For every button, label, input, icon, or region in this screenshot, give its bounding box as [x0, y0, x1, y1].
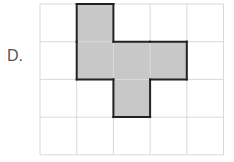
shaded-cell — [150, 42, 187, 80]
shaded-cell — [113, 42, 150, 80]
shaded-cell — [77, 4, 114, 42]
shaded-cell — [113, 79, 150, 117]
shaded-cell — [77, 42, 114, 80]
grid-figure — [0, 0, 234, 162]
